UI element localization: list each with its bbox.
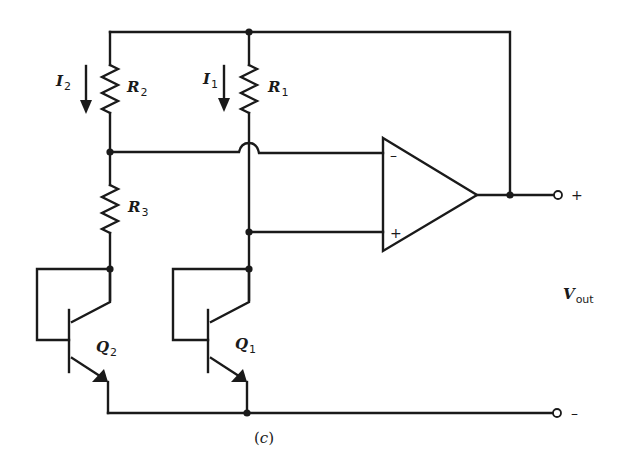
output-positive-terminal[interactable] [554,191,562,199]
r2-r3-junction-node [106,148,113,155]
bottom-junction-node [243,409,250,416]
inverting-input-wire [110,143,383,153]
resistor-r3 [102,185,118,233]
schematic: – + + – I2 R2 I1 R1 R3 Q2 Q1 Vout (c) [0,0,623,465]
i1-arrow-icon [218,98,230,112]
resistor-r1 [241,65,257,113]
q2-emitter-arrow-icon [92,369,108,382]
noninverting-junction-node [245,228,252,235]
i2-arrow-icon [80,100,92,114]
q2-emitter [72,358,100,376]
q1-collector-node [245,265,252,272]
label-r1: R1 [267,78,288,99]
q1-collector-wire [211,269,249,322]
label-vout: Vout [563,285,594,306]
resistor-r2 [102,65,118,113]
label-r3: R3 [127,198,148,219]
opamp-inverting-sign: – [390,147,397,163]
top-junction-node [245,28,252,35]
bandgap-reference-circuit: – + + – I2 R2 I1 R1 R3 Q2 Q1 Vout (c) [0,0,623,465]
q2-base-tie [37,269,110,340]
label-r2: R2 [126,78,147,99]
top-wire [110,32,510,195]
label-q1: Q1 [235,335,256,356]
output-negative-terminal[interactable] [553,409,561,417]
negative-terminal-sign: – [571,405,578,421]
q1-emitter-arrow-icon [231,369,247,382]
label-i1: I1 [202,70,218,91]
output-node [506,191,513,198]
q2-collector-node [106,265,113,272]
label-i2: I2 [55,72,71,93]
q1-base-tie [173,269,249,340]
opamp-noninverting-sign: + [390,225,402,241]
positive-terminal-sign: + [571,187,583,203]
q2-collector-wire [72,269,110,322]
label-q2: Q2 [96,338,117,359]
q1-emitter [211,358,239,376]
figure-caption: (c) [254,429,274,447]
